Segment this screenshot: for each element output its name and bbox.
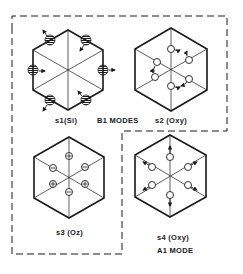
si-atom-icon <box>80 35 91 51</box>
label-b1-modes: B1 MODES <box>97 116 139 125</box>
si-atom-icon <box>98 65 115 75</box>
oxygen-atom-icon <box>181 76 193 87</box>
oxygen-atom-icon <box>168 83 181 90</box>
si-atom-icon <box>28 65 45 75</box>
oxygen-atom-icon <box>185 162 198 171</box>
minus-atom-icon <box>50 165 57 172</box>
b1-modes-boundary <box>12 16 227 254</box>
minus-atom-icon <box>82 164 89 171</box>
plus-atom-icon <box>82 181 89 188</box>
oxygen-atom-icon <box>167 192 174 207</box>
vibrational-modes-diagram <box>0 0 243 274</box>
panel-s3-oz <box>34 137 104 218</box>
oxygen-atom-icon <box>186 51 193 64</box>
panel-s4-oxy <box>135 135 206 217</box>
plus-atom-icon <box>50 181 57 188</box>
panel-s2-oxy <box>135 28 207 111</box>
label-s4: s4 (Oxy) <box>157 233 189 242</box>
label-s3: s3 (Oz) <box>56 228 83 237</box>
oxygen-atom-icon <box>152 69 159 81</box>
label-a1-mode: A1 MODE <box>157 246 193 255</box>
minus-atom-icon <box>66 189 73 196</box>
oxygen-atom-icon <box>168 46 181 53</box>
plus-atom-icon <box>66 153 73 160</box>
oxygen-atom-icon <box>154 59 161 73</box>
panel-s1-si <box>28 30 115 111</box>
oxygen-atom-icon <box>167 146 174 161</box>
label-s1: s1(Si) <box>55 116 77 125</box>
label-s2: s2 (Oxy) <box>155 116 187 125</box>
oxygen-atom-icon <box>185 182 198 191</box>
